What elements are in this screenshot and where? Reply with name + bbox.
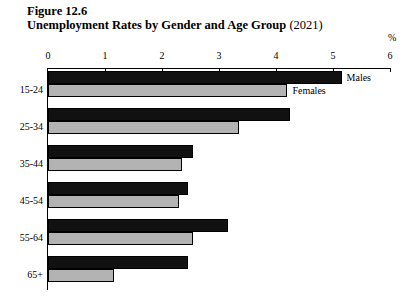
- chart-plot-area: 0123456 15-2425-3435-4445-5455-6465+ Mal…: [0, 0, 410, 307]
- series-label-females: Females: [292, 85, 325, 96]
- y-axis-label-text: 15-24: [3, 84, 43, 95]
- x-axis-tick-1: 1: [103, 50, 108, 61]
- bar-females-65+: [48, 269, 114, 282]
- bar-females-55-64: [48, 232, 193, 245]
- bar-males-55-64: [48, 219, 228, 232]
- bar-females-25-34: [48, 121, 239, 134]
- bar-males-25-34: [48, 108, 290, 121]
- bar-males-45-54: [48, 182, 188, 195]
- x-axis-tick-4: 4: [274, 50, 279, 61]
- y-axis-label-text: 55-64: [3, 232, 43, 243]
- x-axis-tick-3: 3: [217, 50, 222, 61]
- y-axis-label-text: 45-54: [3, 195, 43, 206]
- bar-females-45-54: [48, 195, 179, 208]
- x-axis-tickmark-2: [162, 68, 163, 72]
- x-axis-tick-2: 2: [160, 50, 165, 61]
- x-axis-tick-5: 5: [331, 50, 336, 61]
- bar-males-15-24: [48, 71, 342, 84]
- y-axis-label-text: 65+: [3, 269, 43, 280]
- x-axis-tickmark-6: [390, 68, 391, 72]
- bar-males-35-44: [48, 145, 193, 158]
- x-axis-tick-0: 0: [46, 50, 51, 61]
- x-axis-tickmark-4: [276, 68, 277, 72]
- series-label-males: Males: [347, 72, 371, 83]
- x-axis-tickmark-5: [333, 68, 334, 72]
- x-axis-tickmark-1: [105, 68, 106, 72]
- y-axis-label-text: 35-44: [3, 158, 43, 169]
- bar-males-65+: [48, 256, 188, 269]
- bar-females-35-44: [48, 158, 182, 171]
- y-axis-label-text: 25-34: [3, 121, 43, 132]
- x-axis-tick-6: 6: [388, 50, 393, 61]
- bar-females-15-24: [48, 84, 287, 97]
- x-axis-tickmark-3: [219, 68, 220, 72]
